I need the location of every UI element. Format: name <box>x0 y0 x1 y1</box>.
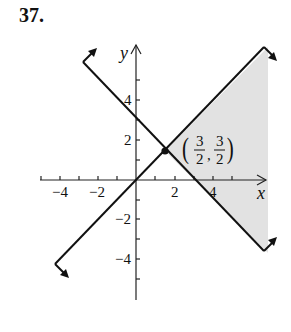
x-tick-label: 2 <box>171 184 179 200</box>
svg-text:3: 3 <box>196 133 204 149</box>
svg-text:,: , <box>207 147 211 163</box>
svg-text:2: 2 <box>196 151 204 167</box>
y-tick-label: −4 <box>115 251 131 267</box>
x-axis-label: x <box>256 183 265 203</box>
arrow-top-left-icon <box>83 48 97 62</box>
x-tick-label: −4 <box>52 184 68 200</box>
y-axis <box>131 45 141 300</box>
arrow-bottom-left-icon <box>55 264 69 278</box>
y-tick-label: −2 <box>115 211 131 227</box>
y-axis-label: y <box>118 43 128 63</box>
svg-text:3: 3 <box>216 133 224 149</box>
svg-text:): ) <box>227 131 234 165</box>
vertex-point <box>161 147 168 154</box>
x-tick-label: −2 <box>89 184 105 200</box>
y-tick-label: 2 <box>124 132 132 148</box>
svg-text:2: 2 <box>216 151 224 167</box>
graph: −4 −2 2 4 4 2 −2 −4 y x <box>0 0 291 332</box>
svg-text:(: ( <box>182 131 189 165</box>
